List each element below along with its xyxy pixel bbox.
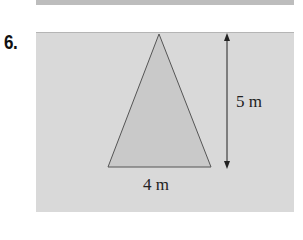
height-arrow-icon [224,33,230,169]
height-label: 5 m [236,92,262,112]
base-label: 4 m [143,175,169,195]
triangle [108,34,211,167]
